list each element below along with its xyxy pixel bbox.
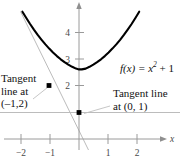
annotation-tangent-left-line3: (–1,2) bbox=[1, 97, 36, 110]
tangent-line-figure: −2 −1 1 2 2 3 4 x Tangent line at (–1,2)… bbox=[0, 0, 184, 165]
tangency-point-left-marker bbox=[47, 83, 52, 88]
x-axis-arrow bbox=[160, 136, 167, 141]
y-tick-label-2: 2 bbox=[65, 81, 70, 91]
tangency-point-vertex-marker bbox=[77, 110, 82, 115]
x-axis-label: x bbox=[169, 134, 175, 144]
annotation-tangent-left-line2: line at bbox=[1, 85, 36, 98]
function-equation-prefix: f(x) = x bbox=[120, 62, 153, 74]
x-tick-label-2: 2 bbox=[135, 148, 140, 158]
y-axis-arrow bbox=[76, 2, 81, 9]
annotation-tangent-right-line2: at (0, 1) bbox=[113, 100, 168, 113]
x-tick-label-1: 1 bbox=[106, 148, 111, 158]
y-tick-label-4: 4 bbox=[65, 28, 70, 38]
x-tick-label--2: −2 bbox=[16, 148, 26, 158]
annotation-tangent-left: Tangent line at (–1,2) bbox=[1, 72, 36, 110]
annotation-function-equation: f(x) = x2 + 1 bbox=[120, 59, 174, 74]
function-equation-suffix: + 1 bbox=[157, 62, 174, 74]
annotation-tangent-left-line1: Tangent bbox=[1, 72, 36, 85]
annotation-tangent-right: Tangent line at (0, 1) bbox=[113, 87, 168, 112]
annotation-tangent-right-line1: Tangent line bbox=[113, 87, 168, 100]
x-tick-label--1: −1 bbox=[45, 148, 55, 158]
